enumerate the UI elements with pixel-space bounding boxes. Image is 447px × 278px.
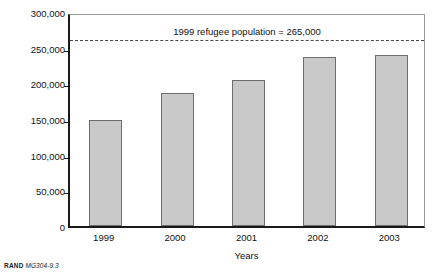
- bar-2002: [303, 57, 336, 226]
- y-axis-tick-label: 0: [3, 223, 65, 233]
- plot-area: 1999 refugee population = 265,000: [68, 14, 425, 228]
- x-axis-tick-label: 2000: [145, 232, 205, 244]
- x-axis-tick-label: 2003: [359, 232, 419, 244]
- x-axis-title: Years: [68, 250, 425, 262]
- y-axis-tick-label: 250,000: [3, 45, 65, 55]
- figure-footer: RAND MG304-9.3: [4, 262, 59, 270]
- x-axis-tick-label: 2001: [217, 232, 277, 244]
- reference-line-icon: [70, 40, 424, 41]
- bar-2001: [232, 80, 265, 226]
- y-axis-tick-label: 150,000: [3, 116, 65, 126]
- bar-2000: [161, 93, 194, 226]
- bars-layer: [70, 15, 424, 226]
- y-axis-tick-label: 200,000: [3, 80, 65, 90]
- x-axis-tick-label: 1999: [74, 232, 134, 244]
- bar-2003: [375, 55, 408, 226]
- reference-line-label: 1999 refugee population = 265,000: [70, 26, 424, 37]
- x-axis-tick-label: 2002: [288, 232, 348, 244]
- figure-container: Total number of returned refugees 050,00…: [0, 0, 447, 278]
- bar-1999: [89, 120, 122, 226]
- rand-brand-label: RAND: [4, 262, 24, 269]
- y-axis-tick-label: 300,000: [3, 9, 65, 19]
- figure-code-label: MG304-9.3: [25, 262, 58, 269]
- y-axis-tick-label: 50,000: [3, 187, 65, 197]
- y-axis-tick-label: 100,000: [3, 152, 65, 162]
